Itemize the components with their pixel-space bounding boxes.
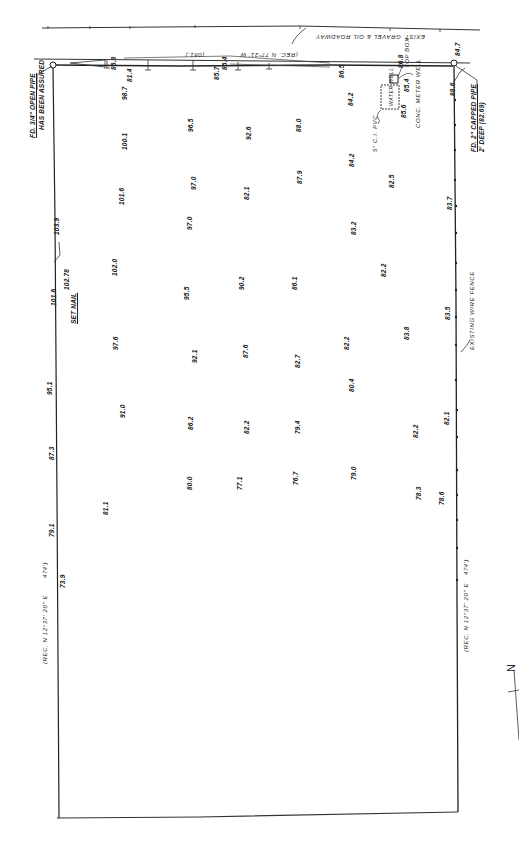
left-line-distance: 474') [42,562,48,578]
left-line-bearing: (REC. N 12°37' 20" E [42,595,48,664]
spot-elevation: 91.0 [119,405,126,418]
corner-top-left-label-2: HAS BEEN ASSURED [38,60,45,130]
spot-elevation: 84.2 [347,93,354,106]
corner-top-left-label-1: FD. 3/4" OPEN PIPE [29,73,36,138]
spot-elevation: 86.2 [187,417,194,430]
meter-well-label: CONC. METER WELL [415,58,421,128]
spot-elevation: 82.2 [412,425,419,438]
spot-elevation: 82.2 [380,264,387,277]
road-bearing-note: (REC. N 77°21' W [240,52,298,58]
spot-elevation: 97.6 [112,337,119,350]
spot-elevation: 78.6 [438,492,445,505]
spot-elevation: 101.6 [118,188,125,205]
spot-elevation: 79.0 [350,467,357,480]
spot-elevation: 97.0 [190,177,197,190]
left-line-elev: 79.1 [48,524,55,537]
road-edge-elev: 81.4 [126,69,133,82]
road-edge-elev: 86.5 [338,65,345,78]
spot-elevation: 96.5 [187,119,194,132]
spot-elevation: 82.1 [443,412,450,425]
pole-elev: 88.6 [449,83,456,96]
spot-elevation: 100.1 [121,133,128,150]
spot-elevation: 79.4 [294,421,301,434]
spot-elevation: 95.5 [183,287,190,300]
set-nail-elev: 102.78 [63,269,70,290]
spot-elevation: 82.2 [243,421,250,434]
left-line-elev: 73.9 [59,575,66,588]
spot-elevation: 83.8 [403,327,410,340]
spot-elevation: 76.7 [292,472,299,485]
corner-top-right-label-2: 2' DEEP (82.69) [478,102,485,152]
spot-elevation: 83.5 [444,307,451,320]
corner-top-right-label-1: FD. 2" CAPPED PIPE [470,84,477,152]
spot-elevation: 83.2 [350,222,357,235]
spot-elevation: 92.1 [191,350,198,363]
spot-elevation: 81.1 [102,502,109,515]
water-well-label: WATER WELL [388,67,394,106]
well-elev: 85.4 [403,79,410,92]
spot-elevation: 98.7 [121,87,128,100]
spot-elevation: 88.0 [295,119,302,132]
spot-elevation: 80.4 [348,379,355,392]
road-edge-elev: 86.8 [110,57,117,70]
meter-box-elev: 86.8 [397,55,404,68]
spot-elevation: 92.6 [245,127,252,140]
survey-linework [0,0,519,845]
spot-elevation: 90.2 [238,277,245,290]
meter-box-label: TOP BOX [404,37,410,68]
spot-elevation: 102.0 [111,259,118,276]
road-edge-elev: 85.7 [213,67,220,80]
north-arrow-icon: N [505,664,517,672]
well-elev: 85.6 [400,105,407,118]
spot-elevation: 82.1 [243,187,250,200]
road-distance-fragment: (081.) [185,52,204,58]
spot-elevation: 87.6 [242,345,249,358]
spot-elevation: 97.0 [186,217,193,230]
spot-elevation: 82.5 [388,175,395,188]
spot-elevation: 82.7 [294,355,301,368]
spot-elevation: 86.1 [291,277,298,290]
spot-elevation: 80.0 [186,477,193,490]
spot-elevation: 87.9 [296,171,303,184]
spot-elevation: 77.1 [236,477,243,490]
spot-elevation: 78.3 [415,487,422,500]
corner-top-right-elev: 84.7 [454,43,461,56]
right-line-bearing: (REC. N 12°37' 20" E [463,583,469,652]
spot-elevation: 82.2 [343,337,350,350]
left-line-elev: 103.9 [53,218,60,235]
set-nail-label: SET NAIL [70,293,77,324]
right-line-distance: 474') [463,559,469,575]
spot-elevation: 83.7 [446,197,453,210]
fence-label: EXISTING WIRE FENCE [469,271,475,350]
left-line-elev: 87.3 [48,447,55,460]
pvc-label: 5" C.I. PVC [372,115,378,152]
left-line-elev: 101.6 [50,289,57,306]
left-line-elev: 95.1 [46,382,53,395]
road-edge-elev: 86.4 [221,57,228,70]
spot-elevation: 84.2 [348,154,355,167]
